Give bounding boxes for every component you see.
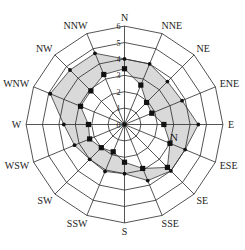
circle-marker: [103, 170, 107, 174]
square-marker: [149, 111, 154, 116]
radial-tick-3: 3: [117, 71, 121, 80]
radial-tick-2: 2: [117, 88, 121, 97]
square-marker: [122, 66, 127, 71]
direction-label-nw: NW: [36, 43, 53, 54]
circle-marker: [180, 99, 184, 103]
circle-marker: [93, 51, 97, 55]
direction-label-nnw: NNW: [64, 20, 88, 31]
direction-label-wsw: WSW: [5, 160, 30, 171]
square-marker: [86, 122, 91, 127]
radial-tick-6: 6: [117, 22, 121, 31]
annotation-n: N: [170, 131, 178, 143]
circle-marker: [123, 172, 127, 176]
circle-marker: [183, 148, 187, 152]
circle-marker: [88, 157, 92, 161]
radial-tick-labels: 0123456: [114, 22, 121, 129]
circle-marker: [166, 80, 170, 84]
direction-label-w: W: [12, 119, 22, 130]
square-marker: [140, 166, 145, 171]
direction-label-sw: SW: [38, 195, 54, 206]
radial-tick-0: 0: [117, 121, 121, 130]
radial-tick-5: 5: [117, 39, 121, 48]
direction-label-se: SE: [196, 195, 208, 206]
square-marker: [99, 145, 104, 150]
square-marker: [87, 136, 92, 141]
direction-label-ese: ESE: [220, 160, 238, 171]
direction-label-nne: NNE: [162, 20, 183, 31]
circle-marker: [68, 68, 72, 72]
circle-marker: [62, 123, 66, 127]
square-marker: [88, 88, 93, 93]
circle-marker: [146, 179, 150, 183]
direction-label-n: N: [121, 12, 128, 23]
circle-marker: [148, 62, 152, 66]
direction-label-ne: NE: [196, 43, 209, 54]
square-marker: [122, 160, 127, 165]
radial-tick-1: 1: [117, 104, 121, 113]
direction-label-sse: SSE: [162, 218, 179, 229]
direction-label-e: E: [228, 119, 234, 130]
radial-tick-4: 4: [117, 55, 121, 64]
square-marker: [111, 149, 116, 154]
square-marker: [165, 165, 170, 170]
circle-marker: [48, 92, 52, 96]
square-marker: [144, 100, 149, 105]
circle-marker: [196, 123, 200, 127]
direction-label-s: S: [122, 226, 128, 237]
square-marker: [161, 122, 166, 127]
circle-marker: [73, 143, 77, 147]
direction-label-ssw: SSW: [67, 218, 88, 229]
square-marker: [78, 104, 83, 109]
square-marker: [101, 72, 106, 77]
wind-rose-chart: NNNENEENEEESESESSESSSWSWWSWWWNWNWNNW 012…: [0, 0, 245, 250]
direction-label-ene: ENE: [220, 78, 239, 89]
direction-label-wnw: WNW: [3, 78, 30, 89]
square-marker: [138, 83, 143, 88]
circle-marker: [123, 57, 127, 61]
